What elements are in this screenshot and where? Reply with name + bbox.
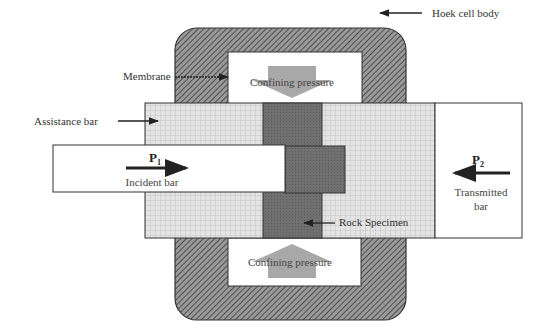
transmitted-bar-label-line2: bar bbox=[474, 200, 488, 212]
assistance-bar-label: Assistance bar bbox=[34, 115, 98, 127]
confining-pressure-bottom-label: Confining pressure bbox=[248, 256, 332, 268]
confining-pressure-top-label: Confining pressure bbox=[250, 76, 334, 88]
rock-specimen-label: Rock Specimen bbox=[339, 216, 409, 228]
hoek-cell-body-label: Hoek cell body bbox=[432, 7, 500, 19]
rock-specimen-block bbox=[285, 146, 345, 193]
membrane-label: Membrane bbox=[123, 70, 171, 82]
incident-bar-label: Incident bar bbox=[126, 176, 179, 188]
hoek-cell-diagram: Confining pressure Confining pressure Ho… bbox=[0, 0, 550, 327]
transmitted-bar bbox=[435, 103, 522, 238]
transmitted-bar-label-line1: Transmitted bbox=[455, 186, 508, 198]
